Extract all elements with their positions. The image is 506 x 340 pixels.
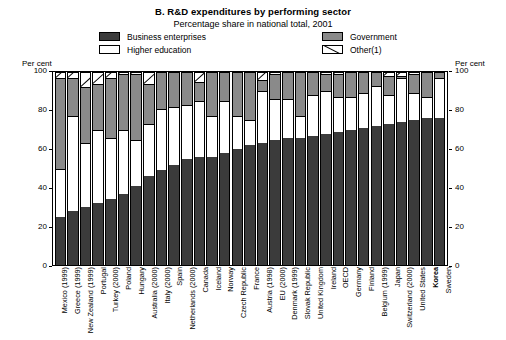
bar-spain [168,72,180,265]
bar-segment-business [168,165,180,265]
bar-segment-business [320,134,332,265]
y-tick-label-left-100: 100 [21,67,47,75]
bar-segment-business [333,132,345,265]
x-tick-iceland: Iceland [205,267,218,340]
bar-segment-government [421,72,433,97]
bar-segment-higher [396,78,408,122]
y-tick-mark-left-80 [49,110,52,111]
x-tick-united-states: United States [410,267,423,340]
bar-segment-business [282,138,294,265]
bar-segment-business [295,138,307,265]
x-tick-greece-1999: Greece (1999) [65,267,78,340]
x-tick-netherlands-2000: Netherlands (2000) [180,267,193,340]
bar-segment-government [143,84,155,125]
bar-segment-higher [80,143,92,207]
bar-germany [345,72,357,265]
bar-iceland [206,72,218,265]
x-tick-oecd: OECD [333,267,346,340]
bar-segment-government [295,72,307,116]
y-tick-label-right-40: 40 [455,184,481,192]
bar-korea [421,72,433,265]
y-tick-mark-right-80 [449,110,452,111]
y-tick-label-right-100: 100 [455,67,481,75]
bar-united-kingdom [307,72,319,265]
y-tick-label-right-0: 0 [455,262,481,270]
x-tick-switzerland-2000: Switzerland (2000) [397,267,410,340]
bar-segment-business [434,118,446,265]
bar-segment-business [118,194,130,265]
bar-italy-2000 [156,72,168,265]
bar-segment-higher [244,120,256,145]
bar-segment-business [219,153,231,265]
x-tick-hungary: Hungary [129,267,142,340]
bar-eu-2000 [269,72,281,265]
x-tick-denmark-1999: Denmark (1999) [282,267,295,340]
bar-segment-business [396,122,408,265]
bar-segment-higher [307,95,319,136]
x-tick-korea: Korea [422,267,435,340]
bar-segment-government [181,72,193,105]
hatch-line [93,72,104,84]
bar-segment-higher [143,124,155,176]
bar-segment-government [408,74,420,93]
bar-segment-higher [206,116,218,157]
bar-denmark-1999 [282,72,294,265]
bar-segment-business [105,199,117,265]
bar-segment-government [358,72,370,93]
x-tick-france: France [244,267,257,340]
bar-segment-business [383,124,395,265]
x-tick-turkey-2000: Turkey (2000) [103,267,116,340]
bar-segment-government [307,72,319,95]
bar-segment-business [257,143,269,265]
bar-segment-business [345,130,357,265]
y-tick-mark-right-40 [449,188,452,189]
bar-czech-republic [232,72,244,265]
bar-segment-higher [333,97,345,132]
bar-segment-business [80,207,92,265]
bar-segment-other [143,72,155,84]
bar-segment-higher [358,93,370,128]
y-tick-label-right-20: 20 [455,223,481,231]
bar-united-states [408,72,420,265]
bar-segment-government [55,78,67,169]
bar-segment-business [244,145,256,265]
bar-segment-higher [320,91,332,133]
x-axis-labels: Mexico (1999)Greece (1999)New Zealand (1… [52,267,448,340]
x-tick-slovak-republic: Slovak Republic [295,267,308,340]
y-tick-label-left-60: 60 [21,145,47,153]
bar-segment-government [244,72,256,120]
bar-segment-government [206,72,218,116]
bar-slovak-republic [295,72,307,265]
bar-segment-government [383,76,395,95]
bar-poland [118,72,130,265]
bar-austria-1998 [257,72,269,265]
bar-segment-higher [118,130,130,194]
bar-segment-higher [168,107,180,165]
bar-france [244,72,256,265]
y-tick-mark-right-60 [449,149,452,150]
y-tick-label-left-80: 80 [21,106,47,114]
bar-greece-1999 [67,72,79,265]
x-tick-united-kingdom: United Kingdom [307,267,320,340]
bar-segment-business [358,128,370,265]
bar-new-zealand-1999 [80,72,92,265]
x-tick-japan: Japan [384,267,397,340]
bar-segment-government [333,74,345,97]
bar-segment-government [105,78,117,138]
bar-segment-business [421,118,433,265]
bar-segment-higher [257,91,269,143]
bar-mexico-1999 [55,72,67,265]
bar-ireland [320,72,332,265]
bar-segment-business [130,186,142,265]
bar-segment-government [269,74,281,99]
x-tick-austria-1998: Austria (1998) [256,267,269,340]
bar-segment-government [219,72,231,101]
bar-segment-business [371,126,383,265]
bar-segment-business [55,217,67,265]
bar-segment-government [92,84,104,130]
x-tick-poland: Poland [116,267,129,340]
bar-segment-higher [67,116,79,211]
bar-segment-business [194,157,206,265]
bar-segment-business [92,203,104,265]
bar-netherlands-2000 [181,72,193,265]
